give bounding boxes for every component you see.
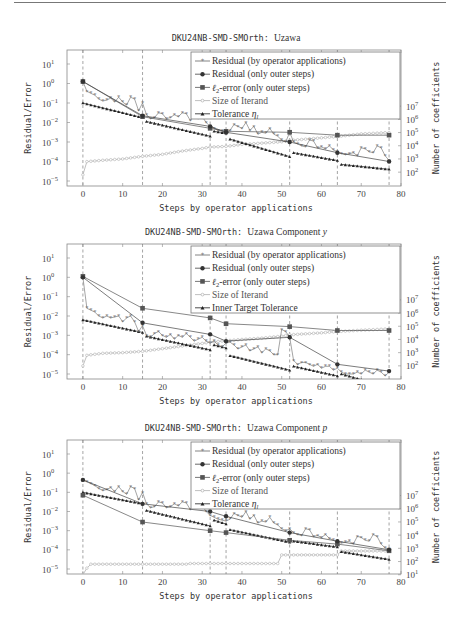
svg-text:*: * <box>328 536 331 542</box>
y2-axis-label: Number of coefficients <box>431 62 441 175</box>
svg-text:*: * <box>161 500 164 506</box>
y-axis-label: Residual/Error <box>23 276 33 348</box>
svg-text:*: * <box>284 139 287 145</box>
svg-text:*: * <box>97 313 100 319</box>
x-tick-label: 40 <box>237 577 247 587</box>
svg-text:*: * <box>213 514 216 520</box>
legend-entry: Inner Target Tolerance <box>212 303 298 313</box>
y-tick-label: 10−3 <box>42 329 58 341</box>
svg-text:*: * <box>284 329 287 335</box>
svg-text:*: * <box>149 334 152 340</box>
y2-tick-label: 104 <box>406 333 419 345</box>
svg-text:*: * <box>260 350 263 356</box>
svg-text:*: * <box>121 319 124 325</box>
y2-tick-label: 104 <box>406 139 419 151</box>
svg-text:*: * <box>177 333 180 339</box>
chart-title: DKU24NB-SMD-SMOrth: Uzawa <box>172 33 302 43</box>
svg-text:*: * <box>308 137 311 143</box>
svg-text:*: * <box>133 96 136 102</box>
svg-text:*: * <box>177 114 180 120</box>
svg-text:*: * <box>360 145 363 151</box>
x-tick-label: 70 <box>357 189 367 199</box>
svg-text:*: * <box>280 137 283 143</box>
svg-text:*: * <box>264 130 267 136</box>
svg-text:*: * <box>201 334 204 340</box>
svg-text:*: * <box>213 338 216 344</box>
svg-text:*: * <box>364 537 367 543</box>
svg-text:*: * <box>328 143 331 149</box>
svg-text:*: * <box>173 501 176 507</box>
legend-entry: ℓ2-error (only outer steps) <box>212 473 310 484</box>
svg-text:*: * <box>133 319 136 325</box>
svg-text:*: * <box>201 251 204 258</box>
svg-text:*: * <box>253 346 256 352</box>
legend-entry: Residual (by operator applications) <box>212 446 346 457</box>
svg-text:*: * <box>117 313 120 319</box>
y-tick-label: 10−2 <box>42 116 58 128</box>
svg-text:*: * <box>344 371 347 377</box>
svg-text:*: * <box>129 484 132 490</box>
chart-title: DKU24NB-SMD-SMOrth: Uzawa Component y <box>145 227 328 237</box>
x-tick-label: 50 <box>277 189 287 199</box>
svg-text:*: * <box>205 120 208 126</box>
svg-text:*: * <box>372 150 375 156</box>
y-tick-label: 10−5 <box>42 563 58 575</box>
y-tick-label: 10−4 <box>42 155 59 167</box>
svg-text:*: * <box>117 484 120 490</box>
svg-text:*: * <box>296 362 299 368</box>
svg-text:*: * <box>101 98 104 104</box>
figure-canvas: DKU24NB-SMD-SMOrth: Uzawa010203040506070… <box>0 0 461 627</box>
svg-text:*: * <box>324 146 327 152</box>
svg-text:*: * <box>157 499 160 505</box>
svg-text:*: * <box>245 342 248 348</box>
svg-text:*: * <box>241 126 244 132</box>
y2-tick-label: 107 <box>406 293 419 305</box>
chart-3: DKU24NB-SMD-SMOrth: Uzawa Component p010… <box>23 423 441 601</box>
y-tick-label: 10−2 <box>42 310 58 322</box>
svg-text:*: * <box>181 110 184 116</box>
legend-entry: Residual (only outer steps) <box>212 69 314 80</box>
svg-text:*: * <box>384 373 387 379</box>
svg-text:*: * <box>153 331 156 337</box>
y2-tick-label: 102 <box>406 166 418 178</box>
legend-entry: ℓ2-error (only outer steps) <box>212 277 310 288</box>
svg-text:*: * <box>129 94 132 100</box>
y-tick-label: 10−2 <box>42 505 58 517</box>
series-tolerance <box>294 153 338 161</box>
y2-tick-label: 102 <box>406 555 418 567</box>
svg-text:*: * <box>93 309 96 315</box>
svg-text:*: * <box>249 128 252 134</box>
svg-text:*: * <box>372 532 375 538</box>
y-axis-label: Residual/Error <box>23 471 33 543</box>
svg-text:*: * <box>93 483 96 489</box>
svg-text:*: * <box>125 491 128 497</box>
svg-text:*: * <box>133 486 136 492</box>
svg-text:*: * <box>300 360 303 366</box>
svg-text:*: * <box>372 371 375 377</box>
svg-text:*: * <box>340 369 343 375</box>
svg-text:*: * <box>141 100 144 106</box>
x-tick-label: 20 <box>158 382 168 392</box>
y-tick-label: 101 <box>42 252 54 264</box>
svg-text:*: * <box>256 520 259 526</box>
svg-text:*: * <box>161 333 164 339</box>
svg-text:*: * <box>256 131 259 137</box>
svg-text:*: * <box>368 538 371 544</box>
svg-text:*: * <box>149 505 152 511</box>
x-tick-label: 80 <box>397 577 407 587</box>
svg-text:*: * <box>300 533 303 539</box>
svg-text:*: * <box>86 89 89 95</box>
svg-text:*: * <box>173 112 176 118</box>
x-tick-label: 20 <box>158 577 168 587</box>
y2-tick-label: 105 <box>406 515 418 527</box>
svg-text:*: * <box>268 126 271 132</box>
legend-entry: Residual (by operator applications) <box>212 250 346 261</box>
svg-text:*: * <box>157 110 160 116</box>
svg-text:*: * <box>264 346 267 352</box>
svg-text:*: * <box>304 526 307 532</box>
x-tick-label: 80 <box>397 382 407 392</box>
svg-text:*: * <box>245 120 248 126</box>
chart-2: DKU24NB-SMD-SMOrth: Uzawa Component y010… <box>23 227 441 406</box>
svg-text:*: * <box>360 371 363 377</box>
svg-text:*: * <box>217 516 220 522</box>
